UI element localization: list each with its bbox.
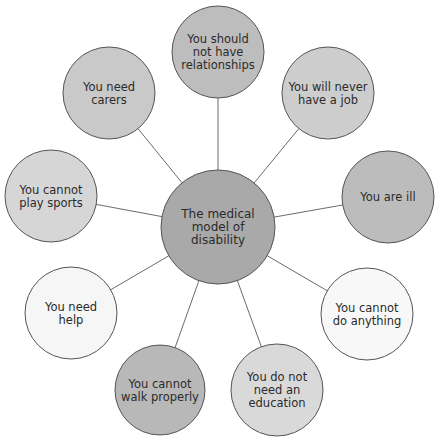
node-carers-label-line: You need bbox=[82, 80, 135, 94]
node-help-label-line: You need bbox=[44, 300, 97, 314]
spider-diagram: You shouldnot haverelationshipsYou will … bbox=[0, 0, 438, 444]
node-do-anything: You cannotdo anything bbox=[321, 268, 413, 360]
connector-education bbox=[237, 281, 261, 347]
node-walk-label-line: You cannot bbox=[128, 377, 192, 391]
node-education-label-line: education bbox=[248, 396, 305, 410]
node-ill: You are ill bbox=[342, 151, 434, 243]
node-job-label-line: You will never bbox=[287, 80, 367, 94]
node-help: You needhelp bbox=[25, 267, 117, 359]
connector-ill bbox=[274, 205, 343, 217]
node-sports: You cannotplay sports bbox=[5, 150, 97, 242]
connector-carers bbox=[138, 129, 182, 183]
center-label-line: The medical bbox=[180, 207, 254, 221]
node-walk: You cannotwalk properly bbox=[115, 345, 205, 435]
node-carers: You needcarers bbox=[63, 47, 155, 139]
node-do-anything-label-line: You cannot bbox=[335, 301, 399, 315]
node-help-label-line: help bbox=[59, 313, 84, 327]
connector-help bbox=[111, 256, 169, 290]
center-node: The medicalmodel ofdisability bbox=[161, 170, 275, 284]
node-job: You will neverhave a job bbox=[282, 47, 374, 139]
connector-do-anything bbox=[267, 256, 327, 291]
node-relationships-label-line: not have bbox=[193, 45, 244, 59]
node-relationships-label-line: relationships bbox=[181, 58, 255, 72]
node-education: You do notneed aneducation bbox=[231, 344, 323, 436]
node-education-label-line: You do not bbox=[246, 370, 308, 384]
node-carers-label-line: carers bbox=[91, 93, 127, 107]
node-do-anything-label-line: do anything bbox=[333, 314, 402, 328]
center-label-line: model of bbox=[192, 220, 246, 234]
node-job-label-line: have a job bbox=[298, 93, 358, 107]
node-walk-label-line: walk properly bbox=[121, 390, 199, 404]
nodes: You shouldnot haverelationshipsYou will … bbox=[5, 6, 434, 436]
node-sports-label-line: play sports bbox=[19, 196, 83, 210]
node-relationships-label-line: You should bbox=[186, 32, 249, 46]
center-label-line: disability bbox=[191, 233, 245, 247]
node-relationships: You shouldnot haverelationships bbox=[172, 6, 264, 98]
node-sports-label-line: You cannot bbox=[19, 183, 83, 197]
diagram-canvas: You shouldnot haverelationshipsYou will … bbox=[0, 0, 438, 444]
node-ill-label-line: You are ill bbox=[359, 190, 415, 204]
connector-walk bbox=[175, 281, 199, 348]
connector-job bbox=[254, 129, 299, 183]
connector-sports bbox=[96, 204, 162, 216]
node-education-label-line: need an bbox=[254, 383, 301, 397]
